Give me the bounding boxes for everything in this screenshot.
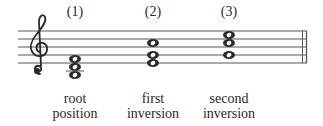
caption-second-inversion: second inversion	[203, 91, 255, 121]
caption-root-position: root position	[52, 91, 97, 121]
chord-number-1: (1)	[67, 4, 83, 20]
chord-number-3: (3)	[221, 4, 237, 20]
caption-line: root	[52, 91, 97, 106]
caption-line: first	[127, 91, 179, 106]
caption-line: inversion	[203, 106, 255, 121]
chord-number-2: (2)	[145, 4, 161, 20]
caption-line: inversion	[127, 106, 179, 121]
caption-first-inversion: first inversion	[127, 91, 179, 121]
treble-clef-icon	[31, 15, 47, 74]
caption-line: second	[203, 91, 255, 106]
caption-line: position	[52, 106, 97, 121]
